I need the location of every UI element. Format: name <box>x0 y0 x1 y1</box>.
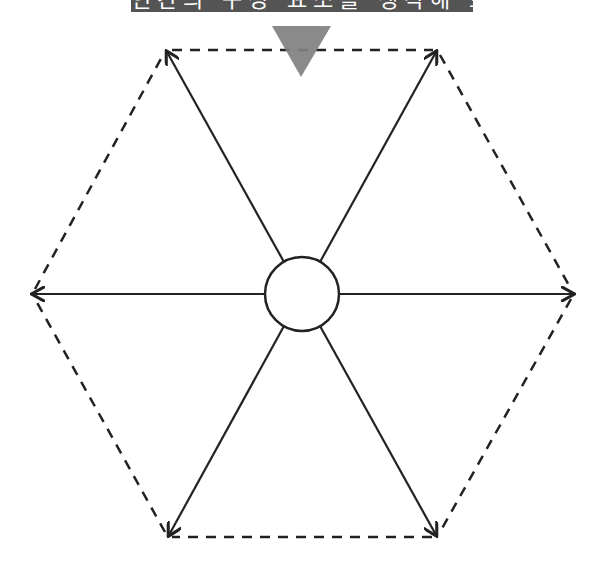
hexagon-edge-top-right <box>440 55 571 289</box>
hexagon-edge-bottom-left <box>35 299 165 532</box>
hexagon-edge-top-left <box>35 55 163 289</box>
center-circle <box>265 257 339 331</box>
spoke-bottom-right <box>320 326 436 535</box>
spoke-top-right <box>320 52 436 262</box>
pointer-triangle <box>272 26 331 77</box>
hexagon-edge-bottom-right <box>440 299 571 532</box>
spoke-top-left <box>167 52 284 262</box>
spoke-bottom-left <box>169 326 284 535</box>
hexagon-diagram <box>0 0 610 573</box>
